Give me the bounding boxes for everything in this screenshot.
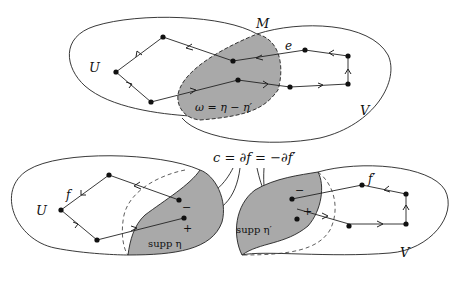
label-e: e	[285, 39, 292, 53]
label-v: V	[360, 103, 371, 118]
label-equation: c = ∂f = −∂f′	[213, 150, 296, 165]
label-minus-left: −	[182, 201, 191, 214]
diagram-svg: M U V e ω = η − η′ c = ∂f = −∂f′ U	[0, 0, 461, 292]
label-plus-left: +	[183, 222, 192, 235]
label-u: U	[89, 60, 101, 75]
label-u-bottom: U	[36, 203, 48, 218]
top-figure: M U V e ω = η − η′	[69, 16, 391, 142]
bottom-left-figure: U f supp η − +	[11, 156, 223, 255]
label-m: M	[255, 16, 270, 31]
bottom-right-figure: V f′ supp η′ − +	[236, 166, 448, 260]
label-minus-right: −	[295, 184, 304, 197]
label-f: f	[65, 188, 73, 202]
label-supp-eta: supp η	[148, 238, 182, 249]
label-supp-eta-prime: supp η′	[236, 224, 273, 235]
label-v-bottom: V	[400, 245, 411, 260]
label-f-prime: f′	[367, 172, 375, 186]
label-omega: ω = η − η′	[195, 101, 253, 114]
label-plus-right: +	[303, 205, 312, 218]
diagram: M U V e ω = η − η′ c = ∂f = −∂f′ U	[0, 0, 461, 292]
